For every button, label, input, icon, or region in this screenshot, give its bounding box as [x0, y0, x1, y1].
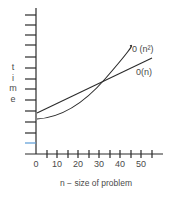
y-ticks: [25, 15, 36, 143]
svg-text:20: 20: [73, 159, 83, 169]
x-tick-labels: 0 10 20 30 40 50: [33, 159, 146, 169]
y-axis-label: t i m e: [8, 62, 18, 104]
series-quadratic-curve: [37, 45, 132, 119]
x-axis-label: n − size of problem: [0, 178, 172, 188]
svg-text:50: 50: [136, 159, 146, 169]
series-linear-label: 0(n): [136, 67, 152, 77]
y-label-char: i: [8, 73, 18, 84]
series-linear-line: [37, 58, 152, 113]
svg-text:40: 40: [115, 159, 125, 169]
y-label-char: m: [8, 83, 18, 94]
y-label-char: e: [8, 94, 18, 105]
complexity-chart: 0 10 20 30 40 50 0 (n²) 0(n) t i m e n −…: [0, 0, 172, 198]
svg-text:0: 0: [33, 159, 38, 169]
chart-canvas: 0 10 20 30 40 50 0 (n²) 0(n): [0, 0, 172, 198]
svg-text:30: 30: [94, 159, 104, 169]
y-label-char: t: [8, 62, 18, 73]
svg-text:10: 10: [52, 159, 62, 169]
series-quadratic-label: 0 (n²): [132, 44, 154, 54]
